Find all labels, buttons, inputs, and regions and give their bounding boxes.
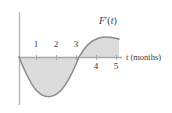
x-axis-label: t(months)	[126, 53, 161, 62]
x-tick-label-4: 4	[89, 62, 103, 71]
x-axis-label-units: (months)	[130, 52, 161, 62]
x-tick-label-2: 2	[49, 40, 63, 49]
x-tick-label-5: 5	[109, 62, 123, 71]
figure-container: 1 2 3 4 5 t(months) F′(t)	[0, 0, 172, 113]
x-axis-label-variable: t	[126, 52, 128, 62]
curve-label-close-paren: )	[113, 15, 116, 26]
x-tick-label-3: 3	[69, 40, 83, 49]
x-tick-label-1: 1	[29, 40, 43, 49]
curve-label-f-prime: F′(t)	[99, 16, 117, 26]
